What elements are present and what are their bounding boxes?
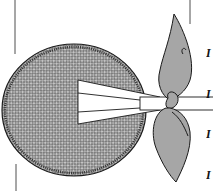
edge-text-line: I [206,88,213,102]
edge-text-line: I [206,47,213,61]
edge-text-line: I [206,169,213,183]
truncated-edge-text: I I I I [206,20,213,191]
edge-text-line: I [206,128,213,142]
woven-fan-illustration [0,0,213,191]
